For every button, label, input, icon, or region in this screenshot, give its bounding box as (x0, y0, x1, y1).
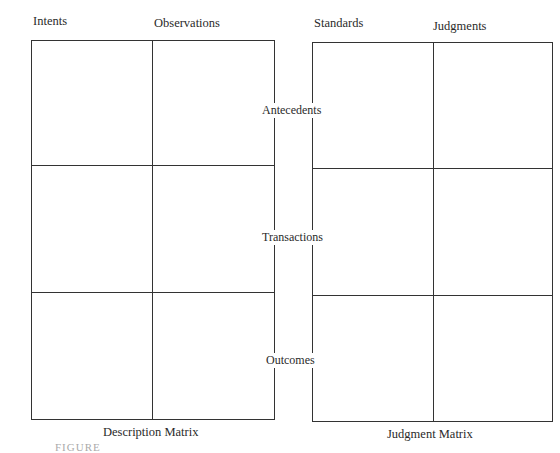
matrix-row-divider (32, 292, 274, 293)
description-matrix (31, 40, 275, 420)
column-header-standards: Standards (314, 17, 363, 30)
matrix-row-divider (313, 168, 552, 169)
matrix-column-divider (433, 43, 434, 421)
matrix-row-divider (313, 295, 552, 296)
row-label-antecedents: Antecedents (262, 103, 321, 118)
column-header-judgments: Judgments (433, 20, 486, 33)
row-label-transactions: Transactions (262, 230, 323, 245)
figure-caption: FIGURE (55, 441, 101, 453)
row-label-outcomes: Outcomes (266, 353, 315, 368)
column-header-observations: Observations (154, 17, 220, 30)
judgment-matrix-title: Judgment Matrix (387, 428, 473, 441)
description-matrix-title: Description Matrix (103, 426, 198, 439)
judgment-matrix (312, 42, 553, 422)
column-header-intents: Intents (33, 15, 67, 28)
matrix-row-divider (32, 165, 274, 166)
matrix-column-divider (152, 41, 153, 419)
